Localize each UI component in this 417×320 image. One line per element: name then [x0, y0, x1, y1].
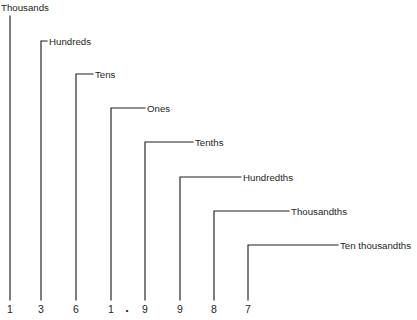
- place-value-chart-canvas: ThousandsHundredsTensOnesTenthsHundredth…: [0, 0, 417, 320]
- place-label-hundreds: Hundreds: [49, 36, 91, 47]
- decimal-point: .: [125, 300, 129, 315]
- place-label-thousandths: Thousandths: [291, 206, 347, 217]
- leader-line-thousandths: [214, 211, 289, 300]
- digit-ten-thousandths: 7: [245, 303, 251, 315]
- leader-line-hundreds: [41, 41, 47, 300]
- digit-tenths: 9: [142, 303, 148, 315]
- digit-thousands: 1: [7, 303, 13, 315]
- place-label-hundredths: Hundredths: [243, 172, 293, 183]
- digit-tens: 6: [73, 303, 79, 315]
- digit-hundredths: 9: [177, 303, 183, 315]
- leader-line-tens: [76, 74, 93, 300]
- place-label-ones: Ones: [147, 103, 170, 114]
- digit-ones: 1: [108, 303, 114, 315]
- leader-line-tenths: [145, 142, 193, 300]
- place-label-ten-thousandths: Ten thousandths: [340, 240, 411, 251]
- digit-hundreds: 3: [38, 303, 44, 315]
- place-labels-group: ThousandsHundredsTensOnesTenthsHundredth…: [1, 2, 411, 251]
- place-label-tenths: Tenths: [195, 137, 224, 148]
- place-value-diagram: ThousandsHundredsTensOnesTenthsHundredth…: [0, 0, 417, 320]
- place-label-thousands: Thousands: [1, 2, 49, 13]
- leader-line-hundredths: [180, 177, 241, 300]
- digit-row-group: 13619987.: [7, 300, 251, 315]
- place-label-tens: Tens: [95, 69, 116, 80]
- digit-thousandths: 8: [211, 303, 217, 315]
- leader-line-ten-thousandths: [248, 245, 338, 300]
- leader-line-ones: [111, 108, 145, 300]
- leader-lines-group: [10, 16, 338, 300]
